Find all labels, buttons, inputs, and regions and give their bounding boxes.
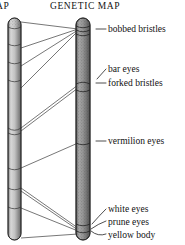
connector-line bbox=[21, 188, 78, 228]
locus-label-forked-bristles: forked bristles bbox=[108, 78, 163, 88]
locus-label-bar-eyes: bar eyes bbox=[108, 64, 139, 74]
locus-label-yellow-body: yellow body bbox=[108, 230, 155, 240]
chromosome-map-figure: MAP GENETIC MAP bbox=[0, 0, 185, 245]
connector-line bbox=[21, 191, 78, 230]
genetic-chromosome bbox=[76, 18, 90, 240]
connector-line bbox=[21, 143, 78, 168]
leader-tick-bar-eyes bbox=[97, 69, 106, 79]
genetic-chromosome-stipple bbox=[76, 18, 90, 240]
locus-label-prune-eyes: prune eyes bbox=[108, 217, 149, 227]
connector-lines bbox=[21, 22, 78, 238]
connector-line bbox=[21, 208, 78, 231]
locus-label-white-eyes: white eyes bbox=[108, 204, 148, 214]
connector-line bbox=[21, 85, 78, 128]
connector-line bbox=[21, 31, 78, 88]
leader-tick-yellow-body bbox=[91, 231, 106, 235]
connector-line bbox=[21, 29, 78, 48]
connector-line bbox=[21, 234, 78, 238]
cytological-chromosome bbox=[8, 18, 21, 240]
label-leader-ticks bbox=[91, 29, 106, 235]
connector-line bbox=[21, 88, 78, 131]
connector-line bbox=[21, 30, 78, 66]
locus-label-bobbed-bristles: bobbed bristles bbox=[108, 24, 166, 34]
connector-line bbox=[21, 22, 78, 29]
diagram-canvas bbox=[0, 0, 185, 245]
locus-label-vermilion-eyes: vermilion eyes bbox=[108, 136, 164, 146]
